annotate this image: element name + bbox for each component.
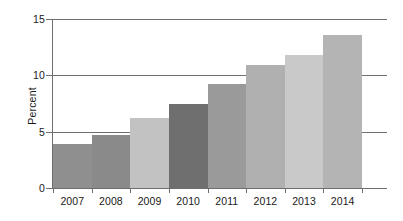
x-axis-tick [169,188,170,193]
bar-2010 [169,104,208,189]
x-axis-tick [53,188,54,193]
bar-2009 [130,118,169,188]
bar-2007 [53,144,92,188]
bar-2011 [208,84,247,188]
x-axis-tick [285,188,286,193]
y-axis-tick-label: 15 [19,14,45,25]
bar-2012 [246,65,285,188]
y-axis-tick-label: 5 [19,127,45,138]
x-axis-tick [130,188,131,193]
bar-2014 [323,35,362,188]
x-axis-tick-label-2014: 2014 [318,196,368,207]
y-axis-tick [46,132,53,133]
x-axis-tick [362,188,363,193]
bar-2008 [92,135,131,188]
plot-area: Percent 051015 2007200820092010201120122… [0,0,403,221]
y-axis-tick [46,19,53,20]
y-axis-tick-label: 10 [19,70,45,81]
x-axis-tick [246,188,247,193]
bar-2013 [285,55,324,188]
x-axis-tick [92,188,93,193]
y-axis-tick [46,75,53,76]
bar-chart: Percent 051015 2007200820092010201120122… [0,0,403,221]
y-axis-tick [46,188,53,189]
x-axis-tick [208,188,209,193]
y-axis-tick-label: 0 [19,183,45,194]
x-axis-tick [323,188,324,193]
bars-group [53,0,387,221]
